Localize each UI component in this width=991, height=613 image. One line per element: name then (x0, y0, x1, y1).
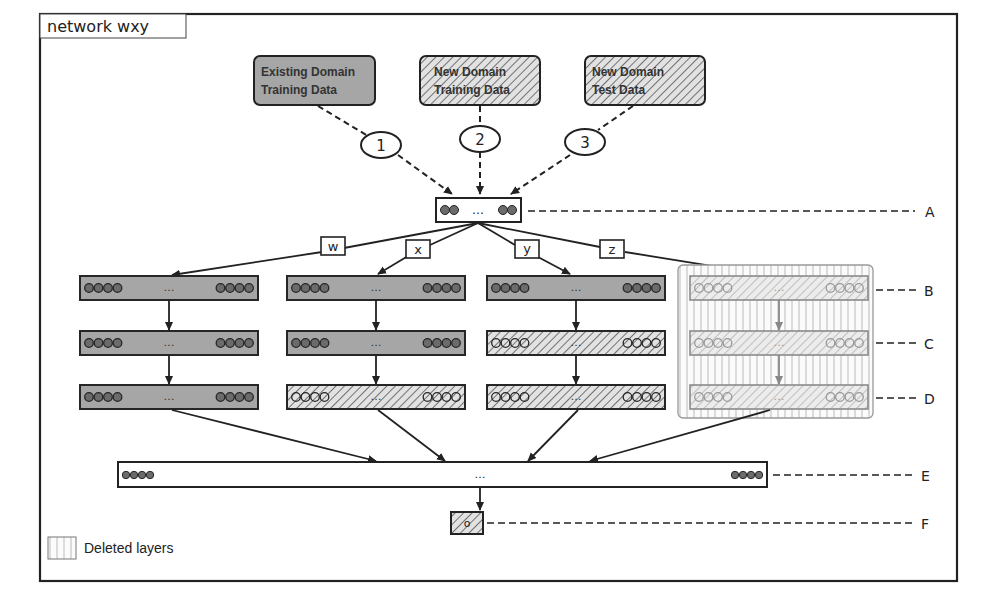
svg-text:y: y (523, 241, 531, 256)
step-2: 2 (460, 126, 500, 152)
svg-text:z: z (609, 242, 616, 257)
svg-text:…: … (164, 336, 175, 349)
layer-b-x: … (287, 276, 465, 300)
layer-f: o (451, 512, 483, 534)
svg-text:Training Data: Training Data (434, 83, 510, 97)
svg-text:…: … (571, 390, 582, 403)
layer-d-z: … (690, 385, 868, 409)
legend-label: Deleted layers (84, 540, 174, 556)
layer-d-y: … (487, 385, 665, 409)
svg-text:x: x (414, 242, 422, 257)
vertical-stripes-swatch-icon (48, 537, 76, 559)
diagram-title: network wxy (47, 17, 149, 36)
label-f: F (921, 516, 929, 532)
label-b: B (924, 283, 934, 299)
svg-text:…: … (371, 336, 382, 349)
label-c: C (924, 336, 934, 352)
branch-label-y: y (515, 240, 539, 258)
svg-text:Training Data: Training Data (261, 83, 337, 97)
diagram-canvas: network wxy Existing Domain Training Dat… (0, 0, 991, 613)
svg-text:…: … (774, 390, 785, 403)
svg-text:…: … (571, 281, 582, 294)
svg-text:1: 1 (376, 137, 386, 155)
step-3: 3 (565, 129, 605, 155)
step-1: 1 (361, 132, 401, 158)
column-y: ……… (487, 276, 665, 409)
svg-text:Existing Domain: Existing Domain (261, 65, 355, 79)
layer-d-w: … (80, 385, 258, 409)
svg-text:…: … (774, 281, 785, 294)
data-source-new-training: New Domain Training Data (420, 56, 540, 105)
column-z: ……… (690, 276, 868, 409)
svg-text:2: 2 (475, 131, 485, 149)
svg-text:Test Data: Test Data (592, 83, 645, 97)
legend: Deleted layers (48, 537, 174, 559)
branch-label-z: z (600, 240, 624, 258)
svg-text:…: … (571, 336, 582, 349)
column-x: ……… (287, 276, 465, 409)
layer-c-w: … (80, 331, 258, 355)
svg-text:…: … (371, 281, 382, 294)
svg-text:…: … (371, 390, 382, 403)
layer-e: … (118, 462, 767, 487)
layer-b-z: … (690, 276, 868, 300)
branch-label-w: w (321, 237, 345, 255)
svg-text:New Domain: New Domain (592, 65, 664, 79)
svg-text:w: w (328, 239, 339, 254)
label-e: E (921, 468, 930, 484)
svg-text:…: … (164, 390, 175, 403)
label-a: A (925, 204, 935, 220)
layer-b-y: … (487, 276, 665, 300)
layer-b-w: … (80, 276, 258, 300)
label-d: D (924, 391, 935, 407)
layer-c-x: … (287, 331, 465, 355)
layer-a: … (436, 198, 521, 222)
branch-label-x: x (406, 240, 430, 258)
svg-text:…: … (475, 468, 486, 481)
svg-text:…: … (164, 281, 175, 294)
layer-c-z: … (690, 331, 868, 355)
column-w: ……… (80, 276, 258, 409)
svg-text:3: 3 (580, 134, 590, 152)
data-source-existing: Existing Domain Training Data (254, 56, 375, 105)
svg-text:New Domain: New Domain (434, 65, 506, 79)
layer-c-y: … (487, 331, 665, 355)
layer-d-x: … (287, 385, 465, 409)
svg-text:…: … (472, 203, 484, 217)
svg-text:…: … (774, 336, 785, 349)
data-source-new-test: New Domain Test Data (585, 56, 705, 105)
svg-text:o: o (464, 517, 471, 530)
